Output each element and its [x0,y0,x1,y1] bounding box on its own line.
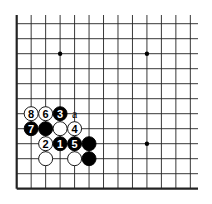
black-stone: 3 [53,107,67,121]
stone-icon [39,152,53,166]
white-stone: 4 [68,122,82,136]
move-number: 7 [28,123,34,135]
star-point-icon [58,52,62,56]
move-number: 2 [43,138,49,150]
move-number: 3 [57,108,63,120]
move-number: 1 [57,138,63,150]
stone-icon [68,152,82,166]
white-stone [53,122,67,136]
black-stone [82,137,96,151]
black-stone: 7 [24,122,38,136]
move-number: 6 [43,108,49,120]
white-stone [39,152,53,166]
white-stone: 2 [39,137,53,151]
white-stone: 8 [24,107,38,121]
black-stone [39,122,53,136]
black-stone: 1 [53,137,67,151]
move-number: 8 [28,108,34,120]
star-point-icon [145,52,149,56]
white-stone [68,152,82,166]
black-stone: 5 [68,137,82,151]
stone-icon [82,152,96,166]
stone-icon [53,122,67,136]
move-number: 4 [72,123,79,135]
go-board: a 86374215 [0,0,212,204]
black-stone [82,152,96,166]
stone-icon [39,122,53,136]
point-marker-label: a [72,107,78,121]
board-markers: a [72,107,78,121]
stone-icon [82,137,96,151]
white-stone: 6 [39,107,53,121]
move-number: 5 [72,138,78,150]
star-point-icon [145,142,149,146]
